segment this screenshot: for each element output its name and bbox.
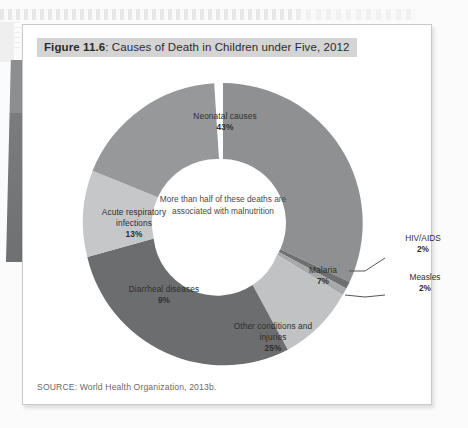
slice-label-diarrheal-name: Diarrheal diseases [129,284,200,294]
figure-title-text: Causes of Death in Children under Five, … [108,41,349,53]
donut-chart: Neonatal causes 43% Acute respiratory in… [73,73,373,373]
figure-panel: Figure 11.6: Causes of Death in Children… [22,24,432,405]
figure-number: Figure 11.6 [44,41,105,53]
figure-source-note: SOURCE: World Health Organization, 2013b… [37,382,216,392]
slice-label-malaria-pct: 7% [288,276,358,287]
slice-label-neonatal-causes: Neonatal causes 43% [165,111,285,133]
callout-measles-name: Measles [410,272,441,282]
figure-title: Figure 11.6: Causes of Death in Children… [37,38,357,57]
callout-hiv-name: HIV/AIDS [405,233,441,243]
slice-label-malaria-name: Malaria [309,265,337,275]
callout-hiv-pct: 2% [391,244,455,255]
slice-label-neonatal-pct: 43% [165,122,285,133]
callout-label-measles: Measles 2% [393,272,457,294]
slice-label-other-conditions-and-injuries: Other conditions and injuries 25% [223,321,323,354]
slice-label-diarrheal-pct: 9% [121,295,207,306]
slice-label-other-pct: 25% [223,343,323,354]
callout-label-hiv-aids: HIV/AIDS 2% [391,233,455,255]
callout-measles-pct: 2% [393,283,457,294]
slice-label-acute-pct: 13% [91,229,177,240]
adjacent-figure-mask [0,22,14,62]
donut-center-annotation: More than half of these deaths are assoc… [155,193,291,217]
scan-ruler-strip [0,9,300,20]
slice-label-other-name: Other conditions and injuries [234,321,313,342]
slice-label-malaria: Malaria 7% [288,265,358,287]
slice-label-neonatal-name: Neonatal causes [193,111,256,121]
slice-label-diarrheal-diseases: Diarrheal diseases 9% [121,284,207,306]
scan-ruler-strip-secondary [296,9,416,20]
